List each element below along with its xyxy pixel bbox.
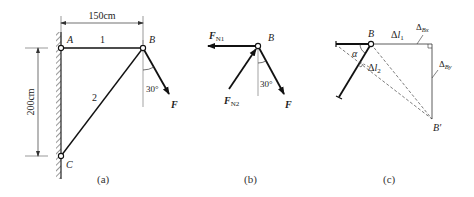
label-force-f: F <box>170 99 178 110</box>
label-member-2: 2 <box>92 92 97 103</box>
label-force-f-b: F <box>284 99 292 110</box>
label-b: B <box>149 34 155 45</box>
label-alpha: α <box>352 48 358 59</box>
angle-arc-30 <box>143 67 154 70</box>
caption-b: (b) <box>244 173 257 186</box>
leader-dbx <box>417 35 423 44</box>
label-a: A <box>66 34 74 45</box>
angle-arc-alpha <box>360 44 365 53</box>
joint-a <box>58 45 63 50</box>
panel-c: B α Δl1 Δl2 ΔBx ΔBy B′ (c) <box>336 22 452 186</box>
label-member-1: 1 <box>100 34 105 45</box>
caption-c: (c) <box>383 173 396 186</box>
caption-a: (a) <box>97 173 110 186</box>
label-b-prime: B′ <box>433 122 442 133</box>
leader-dby <box>432 70 438 78</box>
label-c: C <box>66 159 73 170</box>
dashed-line-2 <box>371 44 432 119</box>
dim-label-150cm: 150cm <box>88 10 115 21</box>
label-delta-bx: ΔBx <box>416 22 429 33</box>
panel-a: 150cm 200cm A B C 1 2 30° F (a) <box>25 10 178 186</box>
dim-label-200cm: 200cm <box>25 88 36 115</box>
label-delta-l2: Δl2 <box>368 62 381 75</box>
force-fn2-arrow <box>229 49 256 89</box>
panel-b: B FN1 FN2 30° F (b) <box>208 30 292 186</box>
label-delta-l1: Δl1 <box>391 29 404 42</box>
member-2 <box>61 48 143 156</box>
joint-c <box>58 153 63 158</box>
label-angle-30-b: 30° <box>260 79 273 89</box>
angle-arc-30-b <box>258 61 266 63</box>
right-angle-marker-top <box>428 44 432 48</box>
truss-diagram: 150cm 200cm A B C 1 2 30° F (a) <box>0 0 474 197</box>
label-fn2: FN2 <box>223 95 240 108</box>
label-b-free-body: B <box>268 32 274 43</box>
label-delta-by: ΔBy <box>439 59 452 70</box>
label-angle-30: 30° <box>146 84 159 94</box>
joint-b-displacement <box>368 41 373 46</box>
joint-b-free-body <box>255 43 260 48</box>
label-fn1: FN1 <box>208 30 225 43</box>
joint-b <box>140 45 145 50</box>
label-b-displacement: B <box>368 28 374 39</box>
